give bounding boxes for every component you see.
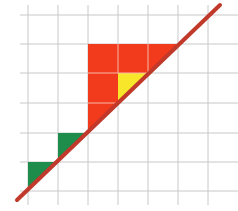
- grid-lines: [20, 5, 238, 205]
- grid-diagram: [0, 0, 238, 211]
